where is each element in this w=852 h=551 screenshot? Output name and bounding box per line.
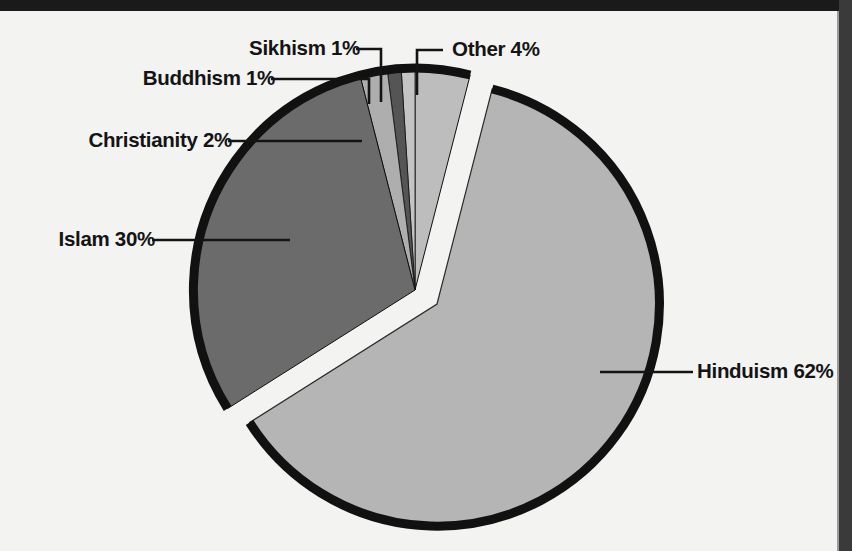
slice-label-other: Other 4% bbox=[452, 37, 540, 61]
slice-label-sikhism: Sikhism 1% bbox=[235, 36, 360, 60]
slice-label-hinduism: Hinduism 62% bbox=[697, 359, 834, 383]
slice-label-christianity: Christianity 2% bbox=[60, 128, 232, 152]
slice-label-buddhism: Buddhism 1% bbox=[120, 66, 275, 90]
slice-label-islam: Islam 30% bbox=[25, 227, 155, 251]
pie-chart-figure: Sikhism 1% Buddhism 1% Christianity 2% I… bbox=[0, 0, 852, 551]
